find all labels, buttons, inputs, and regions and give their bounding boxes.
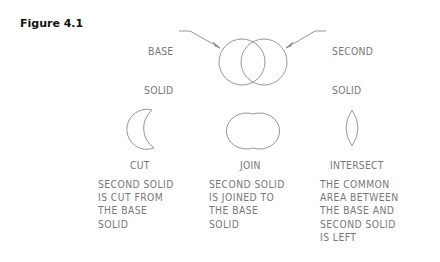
desc-line: SOLID	[98, 218, 174, 231]
cut-description: SECOND SOLID IS CUT FROM THE BASE SOLID	[98, 178, 174, 231]
join-shape	[226, 113, 279, 149]
join-title: JOIN	[240, 159, 261, 172]
join-description: SECOND SOLID IS JOINED TO THE BASE SOLID	[209, 178, 285, 231]
base-label-line2: SOLID	[144, 84, 173, 97]
cut-shape	[127, 109, 154, 149]
desc-line: SECOND SOLID	[209, 178, 285, 191]
desc-line: SECOND SOLID	[98, 178, 174, 191]
desc-line: THE BASE	[209, 204, 285, 217]
second-solid-label: SECOND SOLID	[332, 19, 373, 110]
desc-line: SOLID	[209, 218, 285, 231]
desc-line: THE COMMON	[320, 178, 399, 191]
intersect-description: THE COMMON AREA BETWEEN THE BASE AND SEC…	[320, 178, 399, 244]
desc-line: SECOND SOLID	[320, 218, 399, 231]
intersect-shape	[346, 110, 358, 146]
cut-title: CUT	[130, 159, 150, 172]
desc-line: THE BASE	[98, 204, 174, 217]
desc-line: AREA BETWEEN	[320, 191, 399, 204]
base-label-line1: BASE	[144, 45, 173, 58]
second-label-line2: SOLID	[332, 84, 373, 97]
desc-line: IS CUT FROM	[98, 191, 174, 204]
desc-line: THE BASE AND	[320, 204, 399, 217]
base-solid-label: BASE SOLID	[144, 19, 173, 110]
overlapping-circles	[219, 39, 287, 85]
second-leader-line	[286, 31, 326, 48]
base-leader-line	[179, 31, 220, 48]
intersect-title: INTERSECT	[330, 159, 384, 172]
second-label-line1: SECOND	[332, 45, 373, 58]
desc-line: IS JOINED TO	[209, 191, 285, 204]
desc-line: IS LEFT	[320, 231, 399, 244]
